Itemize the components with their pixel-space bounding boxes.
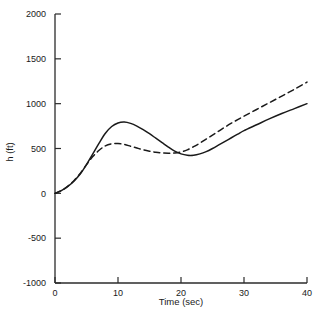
series-line-dashed [55, 82, 307, 193]
y-tick-label: 1000 [26, 99, 46, 109]
x-axis-title: Time (sec) [159, 296, 204, 307]
y-tick-label: -500 [28, 233, 46, 243]
y-tick-label: 2000 [26, 9, 46, 19]
x-tick-label: 10 [113, 288, 123, 298]
x-tick-label: 40 [302, 288, 312, 298]
x-tick-label: 0 [52, 288, 57, 298]
series-line-solid [55, 104, 307, 194]
x-tick-label: 30 [239, 288, 249, 298]
y-tick-label: 1500 [26, 54, 46, 64]
y-tick-label: 0 [41, 189, 46, 199]
y-axis-title: h (ft) [4, 142, 15, 162]
x-axis-ticks: 010203040 [52, 277, 312, 298]
data-series-group [55, 82, 307, 193]
y-tick-label: -1000 [23, 278, 46, 288]
chart-container: -1000-5000500100015002000 010203040 Time… [0, 0, 317, 310]
y-tick-label: 500 [31, 144, 46, 154]
line-chart: -1000-5000500100015002000 010203040 Time… [0, 0, 317, 310]
axes [55, 14, 307, 283]
